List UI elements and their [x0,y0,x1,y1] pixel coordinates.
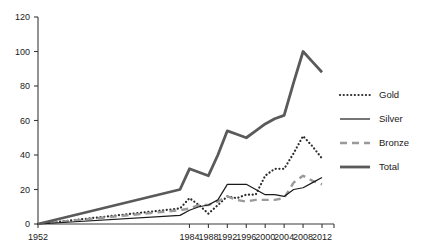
legend-label-total: Total [379,161,399,172]
chart-legend: GoldSilverBronzeTotal [340,89,409,172]
legend-label-bronze: Bronze [379,137,409,148]
y-axis-tick-label: 100 [15,47,30,57]
x-axis-tick-label: 1992 [217,232,237,242]
x-axis-tick-label: 2004 [274,232,294,242]
legend-label-silver: Silver [379,113,403,124]
series-line-silver [38,177,322,224]
x-axis-tick-label: 1952 [28,232,48,242]
legend-item-silver: Silver [340,113,403,124]
y-axis-tick-label: 60 [20,116,30,126]
y-axis-tick-label: 120 [15,12,30,22]
x-axis-tick-label: 2012 [312,232,332,242]
legend-item-total: Total [340,161,399,172]
x-axis-tick-label: 1988 [198,232,218,242]
legend-item-bronze: Bronze [340,137,409,148]
x-axis-tick-label: 1984 [179,232,199,242]
legend-label-gold: Gold [379,89,399,100]
series-line-gold [38,136,322,224]
series-line-bronze [38,176,322,224]
x-axis-tick-label: 2000 [255,232,275,242]
y-axis-tick-label: 40 [20,150,30,160]
y-axis-tick-label: 80 [20,81,30,91]
y-axis-tick-label: 20 [20,185,30,195]
x-axis: 195219841988199219962000200420082012 [28,224,334,242]
legend-item-gold: Gold [340,89,399,100]
chart-canvas: 020406080100120 195219841988199219962000… [0,0,424,252]
x-axis-tick-label: 2008 [293,232,313,242]
y-axis: 020406080100120 [15,12,38,229]
y-axis-tick-label: 0 [25,219,30,229]
medal-count-line-chart: 020406080100120 195219841988199219962000… [0,0,424,252]
series-lines [38,52,322,225]
x-axis-tick-label: 1996 [236,232,256,242]
